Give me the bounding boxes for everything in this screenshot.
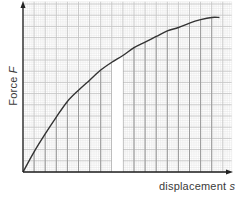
- force-displacement-chart: [0, 0, 243, 203]
- y-axis-label: Force F: [7, 61, 19, 111]
- x-axis-label: displacement s: [159, 180, 235, 192]
- highlighted-strip: [112, 56, 123, 172]
- x-axis: [23, 170, 233, 175]
- y-axis-arrow-icon: [21, 1, 26, 8]
